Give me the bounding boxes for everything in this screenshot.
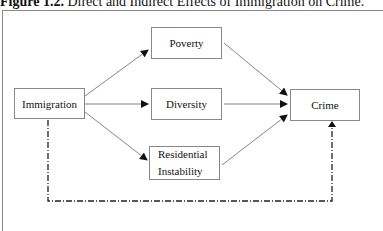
edge-immigration-residential [85,112,147,160]
edge-residential-crime [222,115,287,165]
node-label-line1: Residential [158,146,208,163]
node-poverty: Poverty [151,27,222,59]
node-residential-instability: ResidentialInstability [149,146,220,180]
node-immigration: Immigration [14,88,85,119]
node-label: Immigration [22,98,77,110]
node-crime: Crime [290,89,360,121]
node-label: Diversity [166,98,207,110]
edge-immigration-poverty [85,50,148,96]
arrowhead-direct-effect [328,121,336,127]
node-diversity: Diversity [151,88,222,120]
node-label-line2: Instability [158,163,208,180]
edge-poverty-crime [224,43,287,95]
node-label: Crime [311,99,339,111]
node-label: Poverty [169,37,203,49]
